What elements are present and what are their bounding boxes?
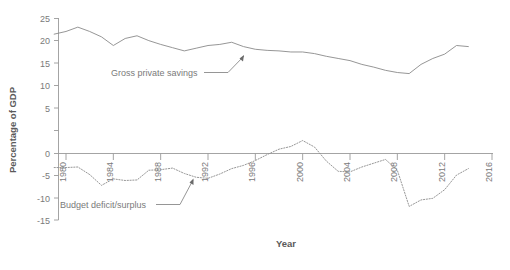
y-tick-label-7: -10 [37,194,50,204]
annotation-leader-gross-private-savings [204,56,244,73]
series-line-budget-deficit-surplus [54,141,468,207]
y-tick-label-2: 15 [40,59,50,69]
y-tick-label-6: -5 [42,171,50,181]
series-line-gross-private-savings [54,27,468,73]
y-axis-title: Percentage of GDP [7,86,18,173]
x-tick-label-1992: 1992 [200,162,210,182]
x-tick-label-1996: 1996 [247,162,257,182]
annotation-label-gross-private-savings: Gross private savings [111,68,198,78]
y-axis-tick-labels: 25 20 15 10 5 0 -5 -10 -15 [37,14,50,226]
x-tick-label-2000: 2000 [295,162,305,182]
chart-container: 25 20 15 10 5 0 -5 -10 -15 1980198419881… [0,0,510,270]
x-tick-label-2012: 2012 [437,162,447,182]
x-tick-label-1988: 1988 [153,162,163,182]
annotation-label-budget-deficit-surplus: Budget deficit/surplus [60,200,147,210]
chart-svg: 25 20 15 10 5 0 -5 -10 -15 1980198419881… [0,0,510,270]
y-tick-label-1: 20 [40,36,50,46]
y-axis-ticks [54,19,59,221]
annotation-leader-budget-deficit-surplus [156,180,193,205]
x-tick-label-2016: 2016 [484,162,494,182]
x-axis-ticks: 1980198419881992199620002004200820122016 [58,154,494,183]
y-tick-label-8: -15 [37,216,50,226]
annotation-arrowhead-budget-deficit-surplus [190,179,194,186]
x-tick-label-1980: 1980 [58,162,68,182]
y-tick-label-4: 5 [45,104,50,114]
y-tick-label-3: 10 [40,81,50,91]
annotation-budget-deficit-surplus: Budget deficit/surplus [60,179,194,211]
y-tick-label-5: 0 [45,149,50,159]
x-axis-title: Year [276,238,296,249]
y-tick-label-0: 25 [40,14,50,24]
annotation-gross-private-savings: Gross private savings [111,55,244,78]
